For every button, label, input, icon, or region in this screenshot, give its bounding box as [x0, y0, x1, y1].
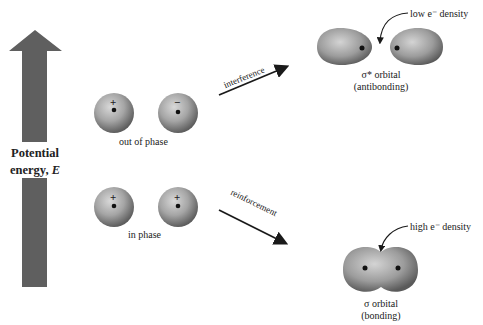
nucleus-dot [112, 204, 117, 209]
antibonding-caption: σ* orbital (antibonding) [346, 69, 416, 92]
nucleus-dot [360, 46, 365, 51]
arrow-shaft-lower [22, 178, 47, 287]
high-density-pointer-icon [381, 226, 408, 250]
axis-label-line1: Potential [11, 146, 59, 160]
high-density-annotation: high e⁻ density [410, 221, 471, 233]
sign-minus: − [174, 96, 180, 109]
bonding-caption: σ orbital (bonding) [346, 298, 416, 321]
nucleus-dot [396, 266, 401, 271]
nucleus-dot [363, 266, 368, 271]
bonding-orbital-body [343, 247, 418, 292]
bonding-orbital-shape [343, 226, 418, 292]
arrow-head-icon [9, 30, 62, 142]
sign-plus: + [110, 96, 116, 109]
bonding-orbital-name: σ orbital [364, 298, 398, 309]
bonding-orbital-type: (bonding) [361, 310, 400, 321]
axis-label-symbol: E [52, 163, 60, 177]
antibonding-orbital-shape [317, 13, 443, 65]
diagram-canvas [0, 0, 483, 325]
low-density-annotation: low e⁻ density [410, 8, 468, 20]
axis-label-line2: energy, [10, 163, 52, 177]
nucleus-dot [176, 110, 181, 115]
in-phase-label: in phase [128, 229, 161, 241]
nucleus-dot [176, 204, 181, 209]
out-of-phase-label: out of phase [119, 136, 168, 148]
nucleus-dot [395, 46, 400, 51]
antibonding-orbital-name: σ* orbital [362, 69, 401, 80]
sign-plus: + [110, 191, 116, 204]
sign-plus: + [174, 191, 180, 204]
antibonding-orbital-type: (antibonding) [354, 81, 408, 92]
potential-energy-label: Potential energy, E [2, 145, 68, 179]
